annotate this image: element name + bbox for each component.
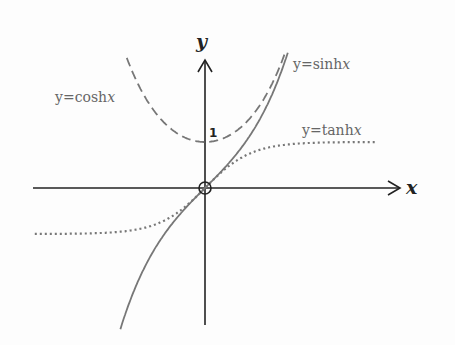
legend-cosh-var: x xyxy=(107,89,115,105)
legend-tanh: y=tanhx xyxy=(302,122,362,138)
legend-tanh-text: y=tanh xyxy=(302,122,354,138)
legend-cosh-text: y=cosh xyxy=(55,89,107,105)
curve-cosh xyxy=(127,50,286,142)
x-axis-label: x xyxy=(406,176,417,198)
chart-canvas: y x 1 y=coshx y=sinhx y=tanhx xyxy=(0,0,455,345)
y-tick-1: 1 xyxy=(209,126,217,140)
legend-cosh: y=coshx xyxy=(55,89,115,105)
plot-area xyxy=(0,0,455,345)
curve-sinh xyxy=(120,53,287,330)
legend-sinh: y=sinhx xyxy=(293,56,350,72)
legend-sinh-text: y=sinh xyxy=(293,56,342,72)
legend-tanh-var: x xyxy=(354,122,362,138)
y-axis-label: y xyxy=(196,30,207,52)
legend-sinh-var: x xyxy=(342,56,350,72)
